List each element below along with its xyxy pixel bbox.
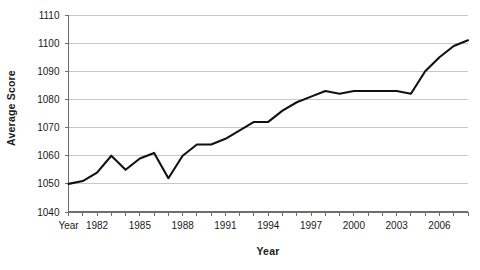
x-axis-tick-label: 1988 [172,220,195,231]
x-axis-tick-label: 1982 [86,220,109,231]
x-axis-tick-label: 1991 [214,220,237,231]
y-axis-tick-label: 1040 [37,207,60,218]
gridlines [69,15,469,212]
axis-lines [69,15,469,212]
x-axis-title: Year [68,245,468,257]
y-axis-tick-label: 1080 [37,94,60,105]
y-axis-tick-label: 1060 [37,150,60,161]
y-axis-tick-label: 1070 [37,122,60,133]
y-axis-tick-label: 1110 [39,10,60,21]
x-axis-tick-label: 2003 [386,220,409,231]
data-series-line [69,40,469,184]
x-axis-tick-marks [69,212,469,216]
y-axis-tick-label: 1050 [37,178,60,189]
x-axis-tick-label: 2000 [343,220,366,231]
x-axis-tick-label: 1985 [129,220,152,231]
y-axis-tick-label: 1100 [38,38,60,49]
y-axis-tick-label: 1090 [37,66,60,77]
x-axis-tick-label: 1997 [300,220,323,231]
y-axis-tick-labels: 10401050106010701080109011001110 [37,10,68,218]
line-chart: Average Score 10401050106010701080109011… [0,0,480,270]
x-axis-tick-label: Year [58,220,79,231]
chart-plot-area: 10401050106010701080109011001110 Year198… [0,0,480,270]
x-axis-tick-label: 1994 [257,220,280,231]
x-axis-tick-labels: Year198219851988199119941997200020032006 [58,220,451,231]
x-axis-tick-label: 2006 [428,220,451,231]
